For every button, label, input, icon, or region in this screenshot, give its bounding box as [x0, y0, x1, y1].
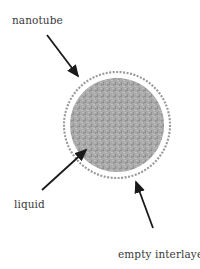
nanotube-label: nanotube	[12, 14, 63, 26]
diagram-canvas	[0, 0, 200, 269]
empty-interlayer-label: empty interlayer	[118, 248, 200, 260]
liquid-arrow	[42, 150, 86, 190]
nanotube-arrow	[47, 35, 78, 76]
liquid-core	[70, 78, 164, 172]
liquid-label: liquid	[14, 198, 45, 210]
empty-interlayer-arrow	[136, 182, 153, 228]
